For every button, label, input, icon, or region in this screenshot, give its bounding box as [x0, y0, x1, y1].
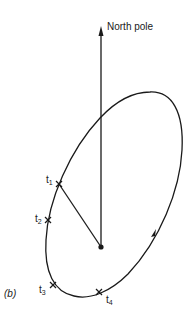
orbit-diagram — [0, 0, 192, 318]
label-t2: t2 — [35, 214, 42, 225]
label-t3: t3 — [39, 285, 46, 296]
label-t1-sub: 1 — [49, 179, 53, 186]
label-t2-sub: 2 — [38, 218, 42, 225]
north-pole-label: North pole — [107, 22, 153, 32]
panel-label: (b) — [4, 289, 16, 299]
label-t1: t1 — [46, 175, 53, 186]
label-t4: t4 — [106, 295, 113, 306]
arrowhead-icon — [99, 26, 104, 36]
focus-dot — [98, 244, 103, 249]
label-t4-sub: 4 — [109, 299, 113, 306]
radius-line — [59, 184, 101, 247]
label-t3-sub: 3 — [42, 289, 46, 296]
